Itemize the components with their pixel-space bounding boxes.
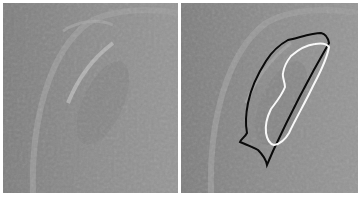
ultrasound-image-left — [3, 3, 178, 193]
original-image-panel — [3, 3, 178, 193]
segmented-image-panel — [181, 3, 358, 193]
ultrasound-image-right — [181, 3, 358, 193]
